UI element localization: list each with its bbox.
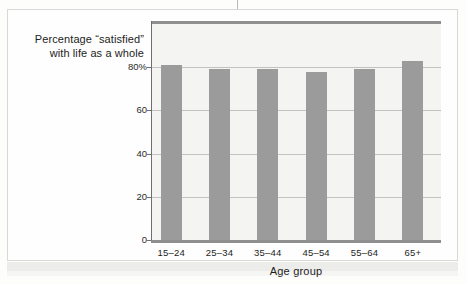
x-tick-label: 65+ (390, 247, 436, 258)
bar (161, 65, 182, 240)
bar (306, 72, 327, 240)
chart-caption: Percentage “satisfied” with life as a wh… (12, 33, 144, 60)
x-tick-label: 55–64 (342, 247, 388, 258)
x-tick-label: 45–54 (293, 247, 339, 258)
y-tick-label: 40 (136, 149, 147, 158)
chart-figure: Percentage “satisfied” with life as a wh… (0, 0, 467, 284)
x-axis-title: Age group (151, 265, 441, 277)
bar-series (151, 21, 441, 241)
caption-line-1: Percentage “satisfied” (12, 33, 144, 47)
x-tick-label: 35–44 (245, 247, 291, 258)
x-tick-label: 25–34 (197, 247, 243, 258)
x-tick-label: 15–24 (148, 247, 194, 258)
bar-chart: 020406080% 15–2425–3435–4445–5455–6465+ … (151, 21, 441, 241)
bar (209, 69, 230, 240)
y-tick-label: 80% (128, 62, 147, 71)
caption-line-2: with life as a whole (12, 47, 144, 61)
y-tick-label: 20 (136, 192, 147, 201)
bar (354, 69, 375, 240)
bar (402, 61, 423, 240)
bar (257, 69, 278, 240)
y-tick-label: 60 (136, 105, 147, 114)
